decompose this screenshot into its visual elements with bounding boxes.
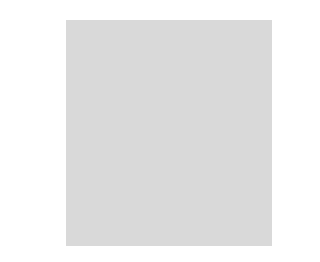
- plot-area: [66, 20, 272, 246]
